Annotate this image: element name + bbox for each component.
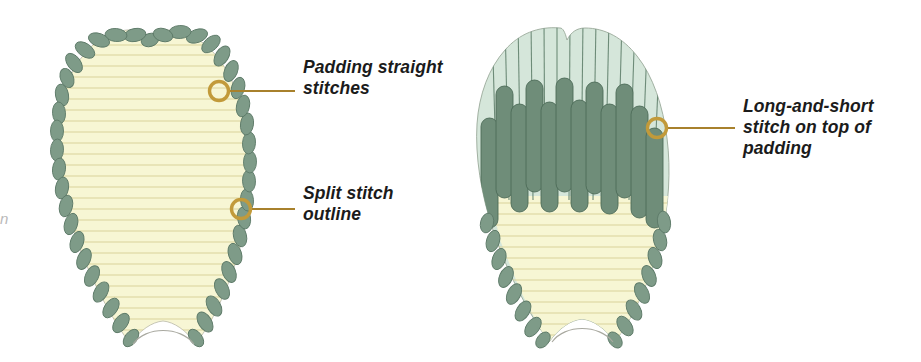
callout-label-padding-straight-stitches: Padding straight stitches (303, 57, 443, 99)
callout-label-split-stitch-outline: Split stitch outline (303, 183, 394, 225)
callout-label-long-and-short-stitch: Long-and-short stitch on top of padding (743, 96, 874, 159)
embroidery-figure: Padding straight stitches Split stitch o… (0, 0, 921, 362)
left-petal-bottom-arc (133, 331, 194, 345)
figure-canvas (0, 0, 921, 362)
left-petal-panel (50, 25, 260, 350)
right-petal-bottom-arc (552, 329, 613, 343)
page-edge-text-fragment: n (0, 208, 9, 230)
right-petal-panel (477, 20, 680, 351)
